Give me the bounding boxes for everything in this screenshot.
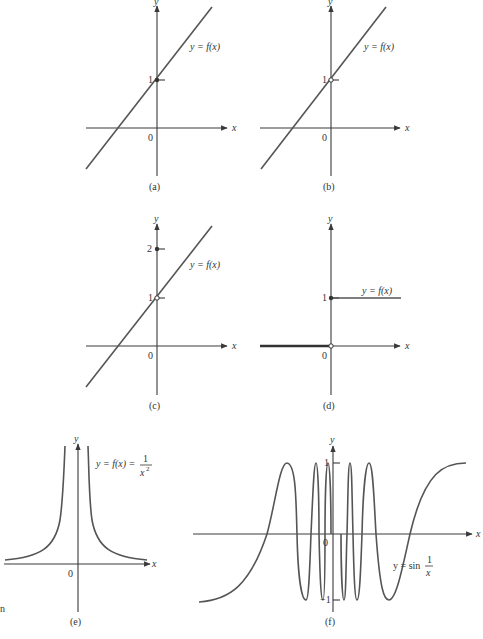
caption: (d) (323, 400, 335, 412)
y-axis-label: y (153, 0, 159, 7)
caption: (b) (323, 181, 335, 193)
caption: (a) (149, 181, 160, 193)
y-tick-label: 1 (322, 292, 327, 303)
fraction-numerator: 1 (143, 453, 148, 464)
filled-point-icon (155, 78, 159, 82)
caption: (e) (70, 616, 81, 628)
margin-text-fragment: n (0, 603, 5, 614)
x-axis-label: x (231, 122, 237, 133)
origin-label: 0 (322, 132, 327, 143)
y-axis-label: y (329, 434, 335, 445)
open-point-icon (329, 78, 333, 82)
filled-point-icon (155, 247, 159, 251)
y-tick-2-label: 2 (147, 243, 152, 254)
origin-label: 0 (148, 132, 153, 143)
y-tick-label: 1 (148, 292, 153, 303)
y-axis-label: y (153, 213, 159, 224)
x-axis-label: x (475, 528, 481, 539)
function-label: y = f(x) (189, 41, 221, 53)
panel-f: y x 1 −1 0 y = sin 1 x (f) (193, 434, 481, 628)
origin-label: 0 (322, 350, 327, 361)
y-tick-label: 1 (322, 74, 327, 85)
fraction-numerator: 1 (427, 554, 432, 565)
left-branch-curve (5, 446, 65, 560)
function-label: y = f(x) (361, 285, 393, 297)
function-label: y = f(x) (363, 41, 395, 53)
filled-point-icon (329, 296, 333, 300)
fraction-denominator: x (425, 567, 431, 578)
function-graphs-figure: y x 1 0 y = f(x) (a) y x 1 0 y = f(x) (b… (0, 0, 483, 639)
open-point-icon (155, 296, 159, 300)
panel-c: y x 2 1 0 y = f(x) (c) (86, 213, 237, 412)
caption: (f) (325, 616, 335, 628)
x-axis-label: x (151, 558, 157, 569)
caption: (c) (149, 400, 160, 412)
fraction-exponent: 2 (146, 465, 150, 473)
panel-e: y x 0 y = f(x) = 1 x 2 (e) (4, 433, 157, 628)
y-tick-label: 1 (148, 74, 153, 85)
y-axis-label: y (73, 433, 79, 444)
origin-label: 0 (68, 568, 73, 579)
origin-label: 0 (148, 350, 153, 361)
y-axis-label: y (327, 213, 333, 224)
x-axis-label: x (404, 122, 410, 133)
panel-d: y x 1 0 y = f(x) (d) (260, 213, 410, 412)
function-label: y = sin (393, 560, 420, 571)
y-tick-pos-label: 1 (324, 457, 329, 468)
y-axis-label: y (327, 0, 333, 7)
line-graph (261, 7, 386, 169)
y-tick-neg-label: −1 (320, 594, 331, 605)
x-axis-label: x (404, 340, 410, 351)
x-axis-label: x (231, 340, 237, 351)
fraction-denominator: x (139, 467, 145, 478)
origin-label: 0 (323, 537, 328, 548)
panel-a: y x 1 0 y = f(x) (a) (86, 0, 237, 193)
function-label: y = f(x) = (95, 458, 135, 470)
function-label: y = f(x) (189, 259, 221, 271)
line-graph (86, 7, 212, 169)
panel-b: y x 1 0 y = f(x) (b) (260, 0, 410, 193)
open-point-icon (329, 344, 333, 348)
